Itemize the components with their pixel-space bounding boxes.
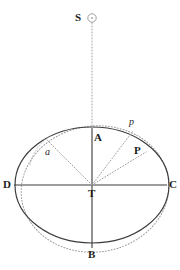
label-axis-right: C xyxy=(169,179,177,190)
label-apex-bottom: B xyxy=(88,249,95,260)
label-axis-left: D xyxy=(3,179,11,190)
label-angle-a: a xyxy=(45,147,50,157)
label-sun: S xyxy=(75,12,81,23)
label-center-T: T xyxy=(88,188,95,199)
radial-line-to-P-lower xyxy=(92,152,146,185)
orbit-diagram xyxy=(0,0,180,270)
label-apex-top: A xyxy=(94,132,102,143)
label-p-upper: p xyxy=(129,117,134,127)
radial-line-to-a xyxy=(47,140,92,185)
sun-symbol xyxy=(88,14,96,22)
label-P-lower: P xyxy=(134,145,141,156)
